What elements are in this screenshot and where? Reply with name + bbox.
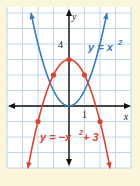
equation-label-x-squared: y = x — [87, 41, 114, 53]
y-axis-label: y — [71, 11, 77, 22]
y-tick-label-4: 4 — [58, 39, 63, 50]
data-point — [97, 119, 102, 124]
x-axis-label: x — [123, 111, 129, 122]
x-tick-label-1: 1 — [82, 109, 87, 120]
data-point — [51, 72, 56, 77]
graph-plot: yx41y = x2y = −x2 + 3 — [0, 0, 140, 186]
equation-constant: + 3 — [83, 131, 99, 143]
data-point — [82, 72, 87, 77]
data-point — [35, 119, 40, 124]
data-point — [66, 57, 71, 62]
equation-exponent: 2 — [117, 38, 123, 47]
equation-label-neg-x-squared-plus-3: y = −x — [39, 131, 72, 143]
